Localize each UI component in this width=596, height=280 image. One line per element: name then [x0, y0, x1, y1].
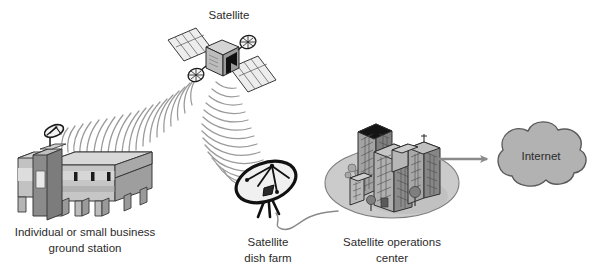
satellite-operations-center: Satellite operations center [325, 124, 459, 264]
satellite-network-diagram: Individual or small business ground stat… [0, 0, 596, 280]
radio-link-ground-station-to-satellite [62, 75, 199, 161]
internet-cloud: Internet [498, 122, 586, 186]
dish-farm-label-line1: Satellite [248, 236, 289, 248]
solar-panel-left [168, 28, 212, 61]
ground-station-label-line1: Individual or small business [15, 226, 156, 238]
satellite-body [206, 40, 239, 76]
ground-station-label-line2: ground station [49, 242, 122, 254]
dish-farm-reflector [230, 154, 301, 211]
satellite-label: Satellite [209, 9, 250, 21]
operations-center-label-line2: center [376, 252, 408, 264]
satellite: Satellite [168, 9, 276, 92]
cable-dish-farm-to-operations-center [276, 211, 338, 229]
dish-farm-label-line2: dish farm [244, 252, 291, 264]
satellite-dish-antenna-lower [186, 66, 206, 84]
satellite-dish-antenna-upper [238, 33, 258, 50]
individual-or-small-business-ground-station: Individual or small business ground stat… [15, 122, 156, 254]
internet-label: Internet [522, 150, 562, 162]
operations-center-label-line1: Satellite operations [343, 236, 441, 248]
diagram-canvas: Individual or small business ground stat… [0, 0, 596, 280]
